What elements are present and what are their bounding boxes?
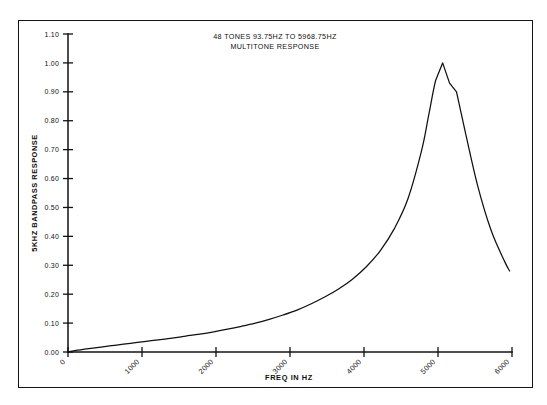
y-tick-label: 0.60 (45, 175, 59, 182)
response-curve (68, 63, 510, 352)
y-tick-label: 0.80 (45, 117, 59, 124)
x-tick-label: 2000 (197, 357, 216, 376)
y-tick-label: 1.10 (45, 31, 59, 38)
y-tick-label: 0.30 (45, 262, 59, 269)
y-tick-label: 0.40 (45, 233, 59, 240)
x-tick-label: 0 (58, 357, 67, 366)
x-tick-label: 6000 (493, 357, 512, 376)
x-axis-title: FREQ IN HZ (265, 373, 313, 382)
x-tick-label: 4000 (345, 357, 364, 376)
y-tick-label: 0.70 (45, 146, 59, 153)
y-tick-label: 0.50 (45, 204, 59, 211)
y-tick-label: 0.90 (45, 88, 59, 95)
x-tick-label: 1000 (123, 357, 142, 376)
chart-title-line1: 48 TONES 93.75HZ TO 5968.75HZ (213, 32, 337, 41)
x-tick-label: 5000 (419, 357, 438, 376)
chart-title-line2: MULTITONE RESPONSE (230, 42, 319, 51)
y-tick-label: 0.20 (45, 291, 59, 298)
y-tick-label: 0.10 (45, 320, 59, 327)
chart-svg: 48 TONES 93.75HZ TO 5968.75HZ MULTITONE … (0, 0, 547, 405)
y-tick-label: 1.00 (45, 60, 59, 67)
figure-container: 48 TONES 93.75HZ TO 5968.75HZ MULTITONE … (0, 0, 547, 405)
y-axis-title: 5KHZ BANDPASS RESPONSE (30, 134, 39, 252)
y-tick-label: 0.00 (45, 349, 59, 356)
chart-title: 48 TONES 93.75HZ TO 5968.75HZ MULTITONE … (213, 32, 337, 51)
